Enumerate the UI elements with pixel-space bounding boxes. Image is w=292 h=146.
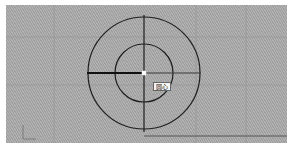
ucs-icon: [20, 123, 38, 143]
drawing-viewport[interactable]: 圆心: [6, 5, 287, 143]
drawing-canvas[interactable]: [6, 5, 287, 143]
center-snap-marker-icon: [142, 71, 146, 75]
snap-tooltip-label: 圆心: [156, 83, 168, 90]
grid: [6, 5, 287, 143]
snap-tooltip: 圆心: [153, 82, 171, 91]
